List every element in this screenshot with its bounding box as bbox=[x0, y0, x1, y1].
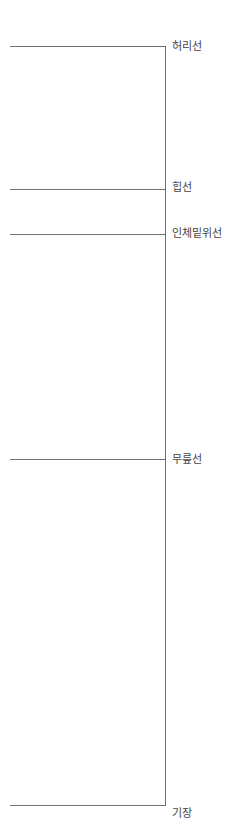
length-line bbox=[10, 805, 166, 806]
crotch-line-label: 인체밑위선 bbox=[172, 227, 222, 241]
hip-line-label: 힙선 bbox=[172, 181, 192, 195]
crotch-line bbox=[10, 234, 166, 235]
waist-line bbox=[10, 46, 166, 47]
vertical-side-line bbox=[165, 46, 166, 806]
knee-line bbox=[10, 459, 166, 460]
hip-line bbox=[10, 189, 166, 190]
knee-line-label: 무릎선 bbox=[172, 453, 202, 467]
length-line-label: 기장 bbox=[172, 807, 192, 821]
waist-line-label: 허리선 bbox=[172, 40, 202, 54]
